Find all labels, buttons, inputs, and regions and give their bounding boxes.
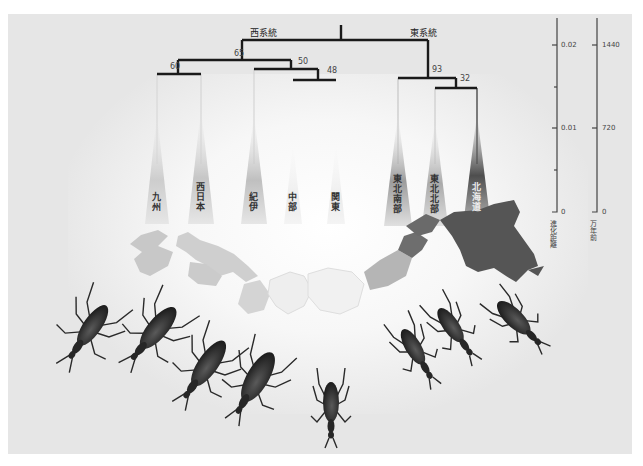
axis-time	[592, 18, 597, 212]
time-tick-0: 0	[602, 208, 606, 216]
map-tohoku-south	[364, 250, 412, 290]
axis-title-distance: 進化距離	[549, 220, 557, 248]
distance-tick-002: 0.02	[561, 41, 577, 49]
leaf-label-tohoku-hokubu: 東北北部	[429, 174, 439, 214]
map-chubu	[268, 272, 312, 314]
phylogeny-figure: 西系統 東系統 65 60 50 48 93 32 九州 西日本 紀伊 中部 関…	[8, 14, 632, 454]
distance-tick-001: 0.01	[561, 124, 577, 132]
bootstrap-tohoku-hokkaido: 32	[460, 74, 470, 83]
bootstrap-chubu-kanto: 48	[327, 66, 337, 75]
bootstrap-kyushu-west: 60	[170, 62, 180, 71]
axis-distance	[552, 18, 557, 212]
map-kii	[238, 280, 270, 314]
leaf-label-kanto: 関東	[330, 192, 340, 212]
leaf-label-tohoku-nanbu: 東北南部	[392, 174, 402, 214]
beetle-5	[311, 368, 351, 448]
leaf-label-chubu: 中部	[287, 192, 297, 212]
leaf-label-hokkaido: 北海道	[471, 182, 481, 212]
bootstrap-west-root: 65	[234, 49, 244, 58]
bootstrap-kii-group: 50	[298, 57, 308, 66]
map-kanto	[308, 268, 364, 314]
bootstrap-east-root: 93	[432, 65, 442, 74]
clade-label-west: 西系統	[250, 26, 277, 39]
leaf-label-nishinihon: 西日本	[195, 182, 205, 212]
distance-tick-0: 0	[561, 208, 565, 216]
map-kyushu	[130, 230, 173, 276]
beetle-7	[415, 286, 494, 374]
clade-label-east: 東系統	[410, 26, 437, 39]
leaf-label-kyushu: 九州	[151, 192, 161, 212]
node-32	[435, 78, 477, 88]
leaf-label-kii: 紀伊	[248, 192, 258, 212]
time-tick-1440: 1440	[602, 41, 620, 49]
beetle-8	[476, 280, 561, 365]
axis-title-time: 万年前	[589, 220, 597, 241]
node-50	[254, 60, 318, 69]
map-hokkaido	[440, 200, 538, 282]
figure-canvas	[8, 14, 632, 454]
beetle-1	[38, 279, 138, 385]
time-tick-720: 720	[602, 124, 615, 132]
